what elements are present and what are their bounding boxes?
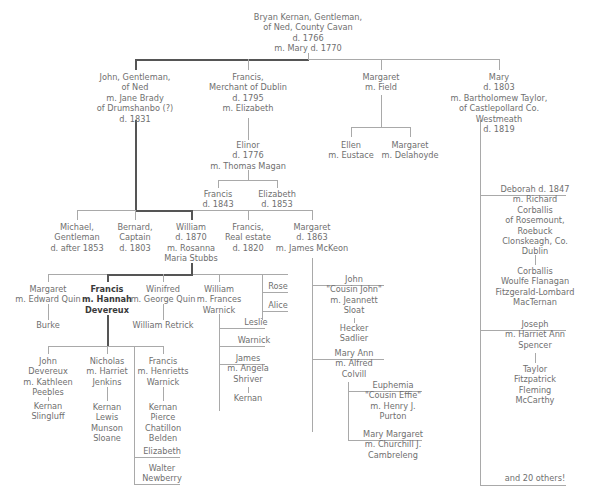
connector <box>262 274 263 320</box>
connector <box>134 346 135 484</box>
connector <box>48 274 49 282</box>
connector <box>218 180 278 181</box>
person-mary-margaret-cambreleng: Mary Margaret m. Churchill J. Cambreleng <box>363 429 423 460</box>
connector <box>277 180 278 188</box>
direct-line-connector <box>135 210 193 212</box>
connector <box>248 170 249 180</box>
connector-rose <box>262 292 288 293</box>
connector <box>48 346 164 347</box>
person-francis-devereux: Francis m. Hannah Devereux <box>82 284 132 315</box>
person-margaret-quin: Margaret m. Edward Quin <box>15 284 80 305</box>
person-kernan-pierce-chatillon-belden: Kernan Pierce Chatillon Belden <box>145 402 181 444</box>
connector <box>248 118 249 140</box>
connector-elizabeth <box>134 457 180 458</box>
connector <box>163 304 164 320</box>
connector <box>351 127 411 128</box>
person-rose: Rose <box>268 281 288 291</box>
direct-line-connector <box>135 120 137 211</box>
person-winifred-quin: Winifred m. George Quin <box>131 284 196 305</box>
direct-line-connector <box>135 59 137 70</box>
person-francis-real-estate: Francis, Real estate d. 1820 <box>225 222 271 253</box>
person-elinor-magan: Elinor d. 1776 m. Thomas Magan <box>210 140 286 171</box>
person-john-gentleman: John, Gentleman, of Ned m. Jane Brady of… <box>97 72 174 124</box>
connector-alice <box>262 311 288 312</box>
direct-line-connector <box>107 274 193 276</box>
person-margaret-field: Margaret m. Field <box>363 72 400 93</box>
person-william-stubbs: William d. 1870 m. Rosanna Maria Stubbs <box>164 222 218 264</box>
connector <box>48 346 49 354</box>
person-joseph-spencer: Joseph m. Harriet Ann Spencer <box>505 319 565 350</box>
person-bryan-kernan: Bryan Kernan, Gentleman, of Ned, County … <box>254 12 362 54</box>
connector <box>77 210 312 211</box>
person-bernard-captain: Bernard, Captain d. 1803 <box>117 222 152 253</box>
connector <box>248 210 249 220</box>
connector <box>219 274 220 282</box>
person-john-cousin-john: John "Cousin John" m. Jeannett Sloat <box>326 274 382 316</box>
connector <box>308 59 500 60</box>
person-mary-ann-colvill: Mary Ann m. Alfred Colvill <box>335 348 374 379</box>
person-alice: Alice <box>268 300 288 310</box>
direct-line-connector <box>191 210 193 220</box>
person-john-devereux: John Devereux m. Kathleen Peebles <box>23 356 72 398</box>
person-nicholas-jenkins: Nicholas m. Harriet Jenkins <box>86 356 127 387</box>
connector <box>163 387 164 401</box>
connector <box>248 59 249 70</box>
connector <box>381 59 382 70</box>
person-francis-magan: Francis d. 1843 <box>202 189 233 210</box>
connector <box>107 387 108 401</box>
person-william-retrick: William Retrick <box>132 320 193 330</box>
person-margaret-delahoyde: Margaret m. Delahoyde <box>381 140 438 161</box>
connector <box>535 353 536 363</box>
person-kernan-lewis-munson-sloane: Kernan Lewis Munson Sloane <box>91 402 123 444</box>
person-warnick: Warnick <box>238 335 271 345</box>
connector-leslie <box>219 328 265 329</box>
connector <box>312 210 313 220</box>
direct-line-connector <box>107 274 109 282</box>
direct-line-connector <box>107 315 109 347</box>
person-leslie: Leslie <box>244 317 267 327</box>
connector <box>135 210 136 220</box>
connector <box>48 304 49 320</box>
direct-line-connector <box>135 59 309 61</box>
connector-walter <box>134 484 180 485</box>
person-margaret-mckeon: Margaret d. 1863 m. James McKeon <box>276 222 348 253</box>
person-elizabeth-newberry: Elizabeth <box>143 446 181 456</box>
connector-warnick <box>219 346 265 347</box>
person-walter-newberry: Walter Newberry <box>142 463 182 484</box>
person-elizabeth-magan: Elizabeth d. 1853 <box>258 189 296 210</box>
connector <box>163 346 164 354</box>
person-francis-warnick: Francis m. Henrietts Warnick <box>138 356 189 387</box>
connector <box>499 59 500 70</box>
person-kernan-slingluff: Kernan Slingluff <box>31 401 64 422</box>
person-william-warnick: William m. Frances Warnick <box>197 284 242 315</box>
person-hecker-sadlier: Hecker Sadlier <box>340 323 369 344</box>
connector <box>381 95 382 127</box>
connector <box>480 120 481 486</box>
person-burke: Burke <box>36 320 60 330</box>
person-taylor-descendants: Taylor Fitzpatrick Fleming McCarthy <box>514 364 556 406</box>
connector <box>351 127 352 137</box>
person-michael-gentleman: Michael, Gentleman d. after 1853 <box>50 222 103 253</box>
connector <box>163 274 164 282</box>
others-note: and 20 others! <box>505 473 565 483</box>
person-james-shriver: James m. Angela Shriver <box>227 353 269 384</box>
connector <box>262 274 288 275</box>
connector <box>218 180 219 188</box>
person-deborah-corballis: Deborah d. 1847 m. Richard Corballis of … <box>501 184 570 257</box>
person-mary-taylor: Mary d. 1803 m. Bartholomew Taylor, of C… <box>451 72 548 134</box>
person-euphemia-purton: Euphemia "Cousin Effie" m. Henry J. Purt… <box>365 380 421 422</box>
person-corballis-descendants: Corballis Woulfe Flanagan Fitzgerald-Lom… <box>496 266 575 308</box>
person-kernan-shriver: Kernan <box>234 393 263 403</box>
connector <box>77 210 78 220</box>
person-ellen-eustace: Ellen m. Eustace <box>328 140 374 161</box>
connector-others <box>480 485 566 486</box>
connector <box>107 346 108 354</box>
person-francis-merchant: Francis, Merchant of Dublin d. 1795 m. E… <box>209 72 287 114</box>
connector <box>410 127 411 137</box>
